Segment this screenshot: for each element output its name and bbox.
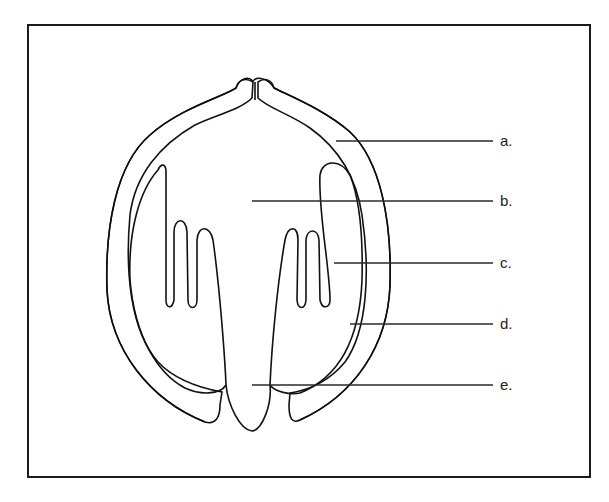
label-c: c. bbox=[500, 254, 512, 271]
label-d: d. bbox=[500, 315, 513, 332]
seed-coat bbox=[107, 78, 390, 422]
figure-frame bbox=[28, 25, 590, 477]
label-a: a. bbox=[500, 132, 513, 149]
label-b: b. bbox=[500, 192, 513, 209]
cotyledon-right bbox=[270, 163, 362, 394]
cotyledon-left bbox=[130, 165, 226, 393]
radicle bbox=[226, 385, 270, 431]
seed-diagram: a. b. c. d. e. bbox=[0, 0, 609, 502]
label-e: e. bbox=[500, 376, 513, 393]
